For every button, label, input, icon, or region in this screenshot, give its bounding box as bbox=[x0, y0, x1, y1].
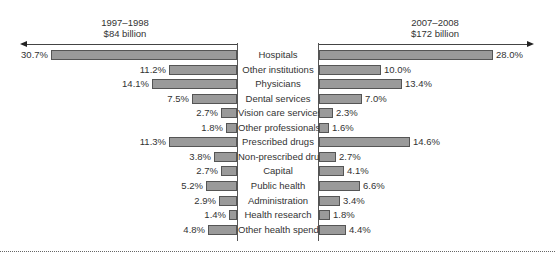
right-value-label: 7.0% bbox=[365, 93, 387, 105]
left-bar bbox=[226, 123, 237, 133]
right-bar bbox=[319, 210, 330, 220]
left-bar bbox=[192, 94, 237, 104]
category-label: Other health spending bbox=[238, 224, 318, 236]
right-value-label: 4.4% bbox=[349, 224, 371, 236]
right-bar bbox=[319, 108, 333, 118]
chart-row: 2.7%Capital4.1% bbox=[0, 164, 555, 178]
left-value-label: 1.8% bbox=[201, 122, 223, 134]
left-axis-line bbox=[24, 44, 237, 45]
right-bar bbox=[319, 79, 402, 89]
chart-row: 2.7%Vision care services2.3% bbox=[0, 106, 555, 120]
right-value-label: 13.4% bbox=[405, 78, 432, 90]
right-arrow-icon bbox=[527, 41, 534, 47]
right-bar bbox=[319, 181, 360, 191]
left-bar bbox=[221, 166, 237, 176]
chart-row: 1.4%Health research1.8% bbox=[0, 208, 555, 222]
chart-row: 11.3%Prescribed drugs14.6% bbox=[0, 135, 555, 149]
left-bar bbox=[169, 65, 237, 75]
category-label: Health research bbox=[238, 209, 318, 221]
left-total-label: $84 billion bbox=[80, 28, 170, 39]
left-value-label: 5.2% bbox=[181, 180, 203, 192]
right-value-label: 2.3% bbox=[336, 107, 358, 119]
dotted-divider bbox=[0, 251, 555, 252]
left-value-label: 4.8% bbox=[183, 224, 205, 236]
right-axis-line bbox=[318, 44, 529, 45]
right-bar bbox=[319, 123, 329, 133]
left-bar bbox=[51, 50, 237, 60]
category-label: Administration bbox=[238, 195, 318, 207]
right-series-header: 2007–2008 $172 billion bbox=[390, 17, 480, 39]
right-value-label: 2.7% bbox=[339, 151, 361, 163]
right-bar bbox=[319, 137, 410, 147]
left-value-label: 7.5% bbox=[167, 93, 189, 105]
right-bar bbox=[319, 50, 493, 60]
left-value-label: 30.7% bbox=[21, 49, 48, 61]
left-bar bbox=[169, 137, 237, 147]
category-label: Physicians bbox=[238, 78, 318, 90]
chart-row: 14.1%Physicians13.4% bbox=[0, 77, 555, 91]
chart-row: 30.7%Hospitals28.0% bbox=[0, 48, 555, 62]
right-value-label: 1.6% bbox=[332, 122, 354, 134]
left-bar bbox=[208, 225, 237, 235]
left-bar bbox=[152, 79, 237, 89]
category-label: Non-prescribed drugs bbox=[238, 151, 318, 163]
category-label: Prescribed drugs bbox=[238, 136, 318, 148]
right-value-label: 10.0% bbox=[384, 64, 411, 76]
left-arrow-icon bbox=[20, 41, 27, 47]
category-label: Vision care services bbox=[238, 107, 318, 119]
chart-row: 3.8%Non-prescribed drugs2.7% bbox=[0, 150, 555, 164]
chart-row: 11.2%Other institutions10.0% bbox=[0, 63, 555, 77]
left-bar bbox=[219, 196, 237, 206]
right-value-label: 4.1% bbox=[347, 165, 369, 177]
right-bar bbox=[319, 152, 336, 162]
chart-row: 4.8%Other health spending4.4% bbox=[0, 223, 555, 237]
left-value-label: 11.3% bbox=[140, 136, 166, 148]
chart-row: 5.2%Public health6.6% bbox=[0, 179, 555, 193]
right-bar bbox=[319, 94, 362, 104]
right-bar bbox=[319, 196, 340, 206]
category-label: Dental services bbox=[238, 93, 318, 105]
left-bar bbox=[221, 108, 237, 118]
category-label: Hospitals bbox=[238, 49, 318, 61]
right-value-label: 28.0% bbox=[496, 49, 523, 61]
left-period-label: 1997–1998 bbox=[80, 17, 170, 28]
left-bar bbox=[214, 152, 237, 162]
right-bar bbox=[319, 225, 346, 235]
right-bar bbox=[319, 65, 381, 75]
chart-row: 2.9%Administration3.4% bbox=[0, 194, 555, 208]
left-value-label: 1.4% bbox=[204, 209, 226, 221]
right-bar bbox=[319, 166, 344, 176]
left-series-header: 1997–1998 $84 billion bbox=[80, 17, 170, 39]
right-total-label: $172 billion bbox=[390, 28, 480, 39]
category-label: Other professionals bbox=[238, 122, 318, 134]
right-value-label: 6.6% bbox=[363, 180, 385, 192]
left-value-label: 3.8% bbox=[189, 151, 211, 163]
left-bar bbox=[229, 210, 237, 220]
left-value-label: 2.9% bbox=[194, 195, 216, 207]
category-label: Capital bbox=[238, 165, 318, 177]
right-period-label: 2007–2008 bbox=[390, 17, 480, 28]
left-value-label: 11.2% bbox=[140, 64, 166, 76]
right-value-label: 1.8% bbox=[333, 209, 355, 221]
right-value-label: 3.4% bbox=[343, 195, 365, 207]
category-label: Public health bbox=[238, 180, 318, 192]
chart-row: 7.5%Dental services7.0% bbox=[0, 92, 555, 106]
left-bar bbox=[206, 181, 237, 191]
chart-row: 1.8%Other professionals1.6% bbox=[0, 121, 555, 135]
right-value-label: 14.6% bbox=[413, 136, 440, 148]
left-value-label: 2.7% bbox=[196, 165, 218, 177]
category-label: Other institutions bbox=[238, 64, 318, 76]
left-value-label: 14.1% bbox=[122, 78, 149, 90]
left-value-label: 2.7% bbox=[196, 107, 218, 119]
